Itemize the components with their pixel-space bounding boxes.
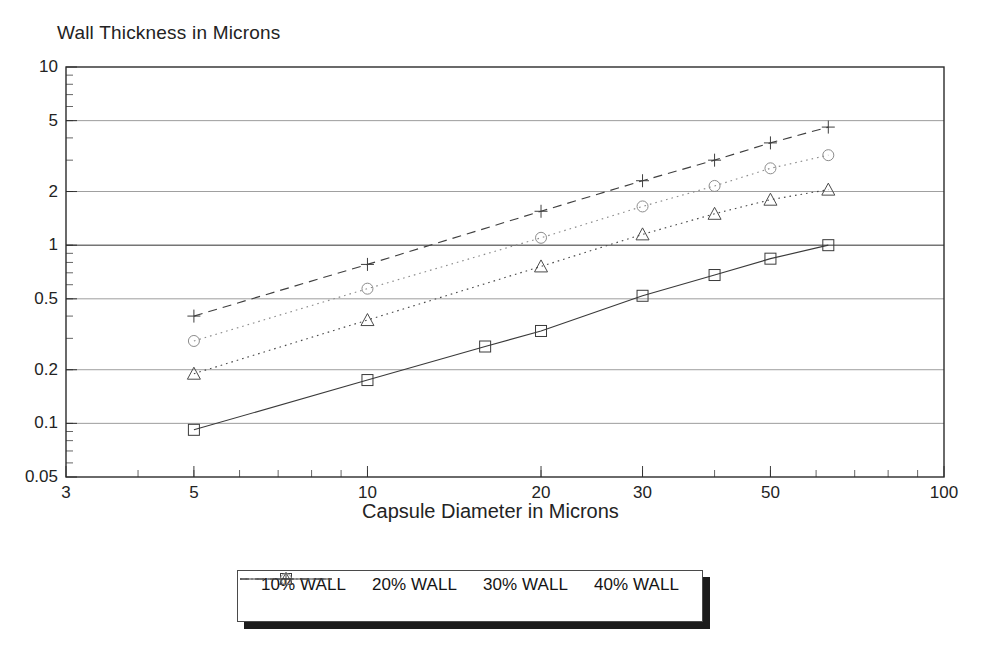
triangle-marker-icon <box>535 260 548 272</box>
series-line <box>194 245 828 430</box>
y-tick-label: 10 <box>0 57 58 77</box>
triangle-marker-icon <box>708 207 721 219</box>
y-tick-label: 5 <box>0 111 58 131</box>
x-axis-label: Capsule Diameter in Microns <box>0 500 981 523</box>
series-line <box>194 155 828 341</box>
legend-item-30-wall[interactable]: 30% WALL <box>470 571 581 621</box>
legend-item-20-wall[interactable]: 20% WALL <box>359 571 470 621</box>
chart-figure: Wall Thickness in Microns 0.050.10.20.51… <box>0 0 981 659</box>
y-tick-label: 1 <box>0 235 58 255</box>
plot-area <box>0 0 981 659</box>
triangle-marker-icon <box>764 193 777 205</box>
y-tick-label: 2 <box>0 182 58 202</box>
circle-marker-icon <box>637 201 648 212</box>
y-tick-label: 0.5 <box>0 289 58 309</box>
legend-label: 40% WALL <box>594 575 679 595</box>
series-line <box>194 190 828 374</box>
circle-marker-icon <box>765 163 776 174</box>
triangle-marker-icon <box>636 228 649 240</box>
plot-frame <box>66 67 944 477</box>
triangle-marker-icon <box>822 183 835 195</box>
y-tick-label: 0.1 <box>0 413 58 433</box>
series-line <box>194 127 828 316</box>
chart-legend: 10% WALL20% WALL30% WALL40% WALL <box>237 570 703 622</box>
y-tick-label: 0.2 <box>0 360 58 380</box>
circle-marker-icon <box>536 232 547 243</box>
triangle-marker-icon <box>361 314 374 326</box>
legend-item-40-wall[interactable]: 40% WALL <box>581 571 692 621</box>
legend-label: 30% WALL <box>483 575 568 595</box>
legend-label: 20% WALL <box>372 575 457 595</box>
circle-marker-icon <box>362 283 373 294</box>
